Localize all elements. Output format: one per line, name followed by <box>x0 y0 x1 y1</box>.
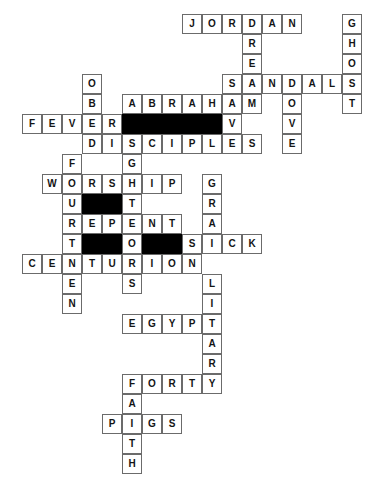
crossword-letter-cell[interactable]: L <box>202 274 222 294</box>
crossword-letter-cell[interactable]: O <box>82 74 102 94</box>
crossword-letter-cell[interactable]: T <box>122 194 142 214</box>
crossword-letter-cell[interactable]: F <box>62 154 82 174</box>
crossword-letter-cell[interactable]: S <box>222 74 242 94</box>
crossword-letter-cell[interactable]: Y <box>202 374 222 394</box>
crossword-letter-cell[interactable]: V <box>222 114 242 134</box>
crossword-letter-cell[interactable]: R <box>82 174 102 194</box>
crossword-letter-cell[interactable]: I <box>122 414 142 434</box>
crossword-letter-cell[interactable]: V <box>62 114 82 134</box>
crossword-letter-cell[interactable]: R <box>162 94 182 114</box>
crossword-letter-cell[interactable]: L <box>322 74 342 94</box>
crossword-letter-cell[interactable]: L <box>202 134 222 154</box>
crossword-letter-cell[interactable]: A <box>262 14 282 34</box>
crossword-letter-cell[interactable]: H <box>122 454 142 474</box>
crossword-letter-cell[interactable]: T <box>62 234 82 254</box>
crossword-letter-cell[interactable]: E <box>42 254 62 274</box>
crossword-letter-cell[interactable]: T <box>182 374 202 394</box>
crossword-letter-cell[interactable]: E <box>282 134 302 154</box>
crossword-letter-cell[interactable]: P <box>102 414 122 434</box>
crossword-letter-cell[interactable]: S <box>342 74 362 94</box>
crossword-letter-cell[interactable]: C <box>22 254 42 274</box>
crossword-letter-cell[interactable]: A <box>202 334 222 354</box>
crossword-letter-cell[interactable]: B <box>82 94 102 114</box>
crossword-letter-cell[interactable]: P <box>182 134 202 154</box>
crossword-letter-cell[interactable]: A <box>242 74 262 94</box>
crossword-letter-cell[interactable]: G <box>342 14 362 34</box>
crossword-letter-cell[interactable]: A <box>122 94 142 114</box>
crossword-letter-cell[interactable]: T <box>342 94 362 114</box>
crossword-letter-cell[interactable]: U <box>102 254 122 274</box>
crossword-letter-cell[interactable]: S <box>122 134 142 154</box>
crossword-letter-cell[interactable]: P <box>182 314 202 334</box>
crossword-letter-cell[interactable]: R <box>62 214 82 234</box>
crossword-letter-cell[interactable]: F <box>22 114 42 134</box>
crossword-letter-cell[interactable]: H <box>202 94 222 114</box>
crossword-letter-cell[interactable]: G <box>202 174 222 194</box>
crossword-letter-cell[interactable]: E <box>122 214 142 234</box>
crossword-letter-cell[interactable]: R <box>122 254 142 274</box>
crossword-letter-cell[interactable]: N <box>62 254 82 274</box>
crossword-letter-cell[interactable]: N <box>62 294 82 314</box>
crossword-letter-cell[interactable]: C <box>222 234 242 254</box>
crossword-letter-cell[interactable]: E <box>62 274 82 294</box>
crossword-letter-cell[interactable]: O <box>142 374 162 394</box>
crossword-letter-cell[interactable]: P <box>102 214 122 234</box>
crossword-letter-cell[interactable]: S <box>162 414 182 434</box>
crossword-letter-cell[interactable]: E <box>122 314 142 334</box>
crossword-letter-cell[interactable]: Y <box>162 314 182 334</box>
crossword-letter-cell[interactable]: E <box>82 214 102 234</box>
crossword-letter-cell[interactable]: G <box>142 414 162 434</box>
crossword-letter-cell[interactable]: N <box>262 74 282 94</box>
crossword-letter-cell[interactable]: I <box>142 174 162 194</box>
crossword-letter-cell[interactable]: K <box>242 234 262 254</box>
crossword-letter-cell[interactable]: O <box>162 254 182 274</box>
crossword-letter-cell[interactable]: A <box>302 74 322 94</box>
crossword-letter-cell[interactable]: N <box>282 14 302 34</box>
crossword-letter-cell[interactable]: W <box>42 174 62 194</box>
crossword-letter-cell[interactable]: D <box>282 74 302 94</box>
crossword-letter-cell[interactable]: I <box>202 294 222 314</box>
crossword-letter-cell[interactable]: T <box>202 314 222 334</box>
crossword-letter-cell[interactable]: B <box>142 94 162 114</box>
crossword-letter-cell[interactable]: O <box>202 14 222 34</box>
crossword-letter-cell[interactable]: T <box>162 214 182 234</box>
crossword-letter-cell[interactable]: E <box>42 114 62 134</box>
crossword-letter-cell[interactable]: O <box>62 174 82 194</box>
crossword-letter-cell[interactable]: E <box>82 114 102 134</box>
crossword-letter-cell[interactable]: I <box>142 254 162 274</box>
crossword-letter-cell[interactable]: H <box>122 174 142 194</box>
crossword-letter-cell[interactable]: R <box>102 114 122 134</box>
crossword-letter-cell[interactable]: F <box>122 374 142 394</box>
crossword-letter-cell[interactable]: I <box>162 134 182 154</box>
crossword-letter-cell[interactable]: G <box>142 314 162 334</box>
crossword-letter-cell[interactable]: T <box>82 254 102 274</box>
crossword-letter-cell[interactable]: I <box>102 134 122 154</box>
crossword-letter-cell[interactable]: E <box>222 134 242 154</box>
crossword-letter-cell[interactable]: C <box>142 134 162 154</box>
crossword-letter-cell[interactable]: N <box>142 214 162 234</box>
crossword-letter-cell[interactable]: O <box>342 54 362 74</box>
crossword-letter-cell[interactable]: D <box>242 14 262 34</box>
crossword-letter-cell[interactable]: T <box>122 434 142 454</box>
crossword-letter-cell[interactable]: S <box>122 274 142 294</box>
crossword-letter-cell[interactable]: M <box>242 94 262 114</box>
crossword-letter-cell[interactable]: R <box>202 194 222 214</box>
crossword-letter-cell[interactable]: A <box>122 394 142 414</box>
crossword-letter-cell[interactable]: O <box>122 234 142 254</box>
crossword-letter-cell[interactable]: A <box>222 94 242 114</box>
crossword-letter-cell[interactable]: R <box>202 354 222 374</box>
crossword-letter-cell[interactable]: O <box>282 94 302 114</box>
crossword-letter-cell[interactable]: G <box>122 154 142 174</box>
crossword-letter-cell[interactable]: J <box>182 14 202 34</box>
crossword-letter-cell[interactable]: I <box>202 234 222 254</box>
crossword-letter-cell[interactable]: P <box>162 174 182 194</box>
crossword-letter-cell[interactable]: D <box>82 134 102 154</box>
crossword-letter-cell[interactable]: E <box>242 54 262 74</box>
crossword-letter-cell[interactable]: A <box>182 94 202 114</box>
crossword-letter-cell[interactable]: U <box>62 194 82 214</box>
crossword-letter-cell[interactable]: S <box>182 234 202 254</box>
crossword-letter-cell[interactable]: R <box>222 14 242 34</box>
crossword-letter-cell[interactable]: H <box>342 34 362 54</box>
crossword-letter-cell[interactable]: S <box>242 134 262 154</box>
crossword-letter-cell[interactable]: A <box>202 214 222 234</box>
